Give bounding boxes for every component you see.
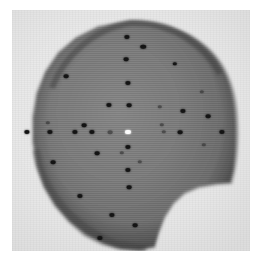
image-viewport [0, 0, 260, 267]
specimen-layer [12, 10, 250, 251]
specimen-outline-svg [12, 10, 250, 251]
micrograph-plate [12, 10, 250, 251]
specimen-disc [12, 10, 250, 251]
